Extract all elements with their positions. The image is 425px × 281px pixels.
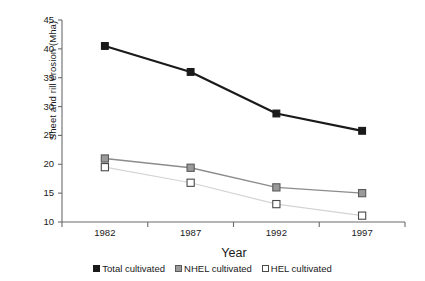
series-marker [101, 164, 108, 171]
series-line [105, 46, 362, 131]
series-marker [187, 179, 194, 186]
series-total-cultivated [101, 43, 365, 135]
legend-swatch-filled-square-icon [93, 265, 100, 272]
legend-label-total: Total cultivated [102, 263, 165, 274]
series-line [105, 167, 362, 215]
series-marker [359, 127, 366, 134]
legend-item-hel: HEL cultivated [262, 262, 332, 274]
series-marker [273, 110, 280, 117]
series-marker [359, 190, 366, 197]
legend-item-total: Total cultivated [93, 262, 165, 274]
series-marker [101, 43, 108, 50]
series-nhel-cultivated [101, 155, 365, 197]
legend-label-hel: HEL cultivated [271, 263, 332, 274]
legend-item-nhel: NHEL cultivated [175, 262, 252, 274]
series-line [105, 159, 362, 194]
legend-label-nhel: NHEL cultivated [184, 263, 252, 274]
x-axis-label: Year [62, 246, 406, 260]
legend-swatch-open-square-icon [262, 265, 269, 272]
series-marker [101, 155, 108, 162]
chart-legend: Total cultivatedNHEL cultivatedHEL culti… [0, 262, 425, 274]
series-marker [273, 184, 280, 191]
chart-figure: Sheet and rill erosion (Mha) 10152025303… [0, 0, 425, 281]
series-marker [187, 69, 194, 76]
plot-area [0, 0, 425, 281]
series-marker [273, 201, 280, 208]
series-marker [359, 212, 366, 219]
legend-swatch-gray-square-icon [175, 265, 182, 272]
series-marker [187, 164, 194, 171]
